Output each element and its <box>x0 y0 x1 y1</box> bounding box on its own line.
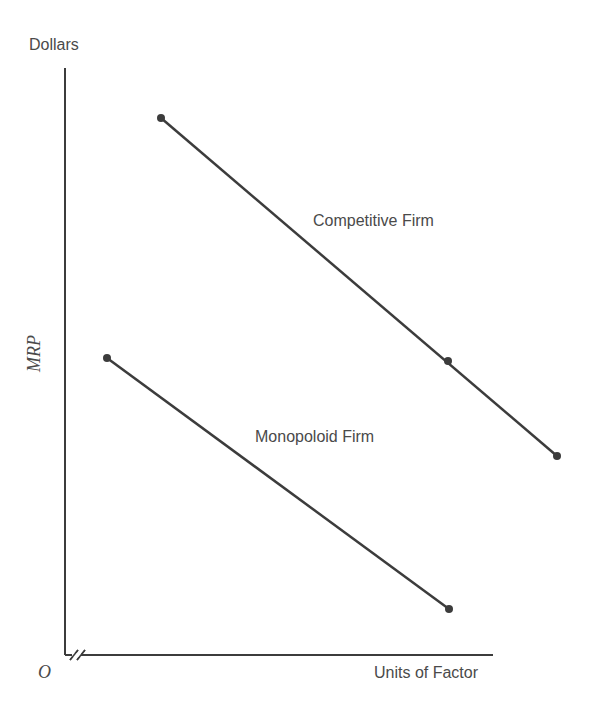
data-point <box>157 114 165 122</box>
data-point <box>103 354 111 362</box>
x-axis-label: Units of Factor <box>374 664 478 682</box>
y-axis-label: Dollars <box>29 36 79 54</box>
monopoloid-firm-curve <box>103 354 453 613</box>
y-axis-variable-label: MRP <box>24 335 45 372</box>
monopoloid-firm-label: Monopoloid Firm <box>255 428 374 446</box>
data-point <box>444 357 452 365</box>
data-point <box>553 452 561 460</box>
competitive-firm-label: Competitive Firm <box>313 212 434 230</box>
data-point <box>445 605 453 613</box>
competitive-firm-curve <box>157 114 561 460</box>
origin-label: O <box>38 662 51 683</box>
mrp-chart <box>0 0 596 717</box>
